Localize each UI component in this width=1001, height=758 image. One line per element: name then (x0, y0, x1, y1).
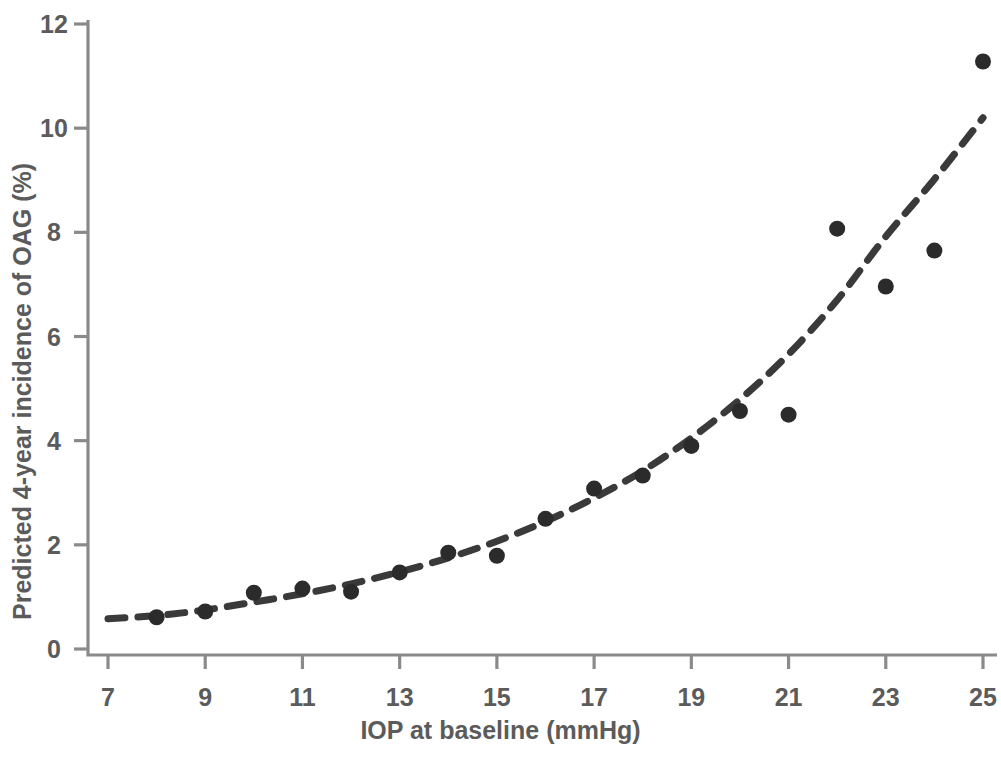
x-tick-label: 7 (101, 683, 115, 712)
x-tick-label: 23 (872, 683, 900, 712)
x-tick-label: 9 (198, 683, 212, 712)
y-tick-label: 2 (47, 530, 61, 559)
x-tick-label: 25 (969, 683, 997, 712)
x-tick-label: 15 (483, 683, 511, 712)
y-axis-title: Predicted 4-year incidence of OAG (%) (8, 163, 37, 620)
fitted-curve (108, 118, 983, 619)
x-tick-label: 21 (775, 683, 803, 712)
y-tick-label: 10 (40, 114, 68, 143)
y-tick-label: 6 (47, 322, 61, 351)
x-axis-title: IOP at baseline (mmHg) (0, 716, 1001, 745)
x-tick-label: 13 (386, 683, 414, 712)
data-points (149, 54, 991, 626)
y-tick-label: 4 (47, 426, 61, 455)
axes (74, 20, 997, 669)
y-tick-label: 8 (47, 218, 61, 247)
x-tick-label: 11 (289, 683, 315, 712)
y-tick-label: 12 (40, 10, 68, 39)
x-tick-label: 17 (580, 683, 608, 712)
y-tick-label: 0 (47, 635, 61, 664)
chart-figure: Predicted 4-year incidence of OAG (%) IO… (0, 0, 1001, 758)
plot-canvas (0, 0, 1001, 758)
x-tick-label: 19 (677, 683, 705, 712)
